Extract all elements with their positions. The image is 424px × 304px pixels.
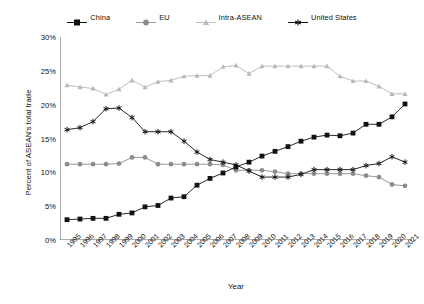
x-axis-title: Year	[60, 282, 412, 291]
series-intra-asean	[65, 63, 408, 97]
series-canvas	[60, 37, 412, 240]
legend-marker-intra-asean-icon	[196, 13, 216, 22]
legend-marker-united-states-icon	[288, 13, 308, 22]
legend-label-intra-asean: Intra-ASEAN	[219, 13, 262, 22]
legend-item-united-states[interactable]: United States	[288, 13, 357, 22]
series-eu	[65, 155, 408, 188]
legend-marker-eu-icon	[136, 13, 156, 22]
chart-legend: China EU Intra-ASEAN	[0, 8, 424, 26]
plot-area	[60, 37, 412, 240]
y-tick-label: 30%	[26, 33, 56, 42]
x-axis-ticks: 1995199619971998199920002001200220032004…	[60, 243, 412, 283]
y-tick-label: 0%	[26, 236, 56, 245]
legend-label-china: China	[90, 13, 110, 22]
line-chart: China EU Intra-ASEAN	[0, 0, 424, 304]
legend-label-united-states: United States	[311, 13, 357, 22]
y-axis-title: Percent of ASEAN's total trade	[24, 63, 33, 223]
legend-item-eu[interactable]: EU	[136, 13, 169, 22]
legend-label-eu: EU	[159, 13, 169, 22]
legend-marker-china-icon	[67, 13, 87, 22]
legend-item-china[interactable]: China	[67, 13, 110, 22]
legend-item-intra-asean[interactable]: Intra-ASEAN	[196, 13, 262, 22]
series-china	[65, 102, 408, 223]
